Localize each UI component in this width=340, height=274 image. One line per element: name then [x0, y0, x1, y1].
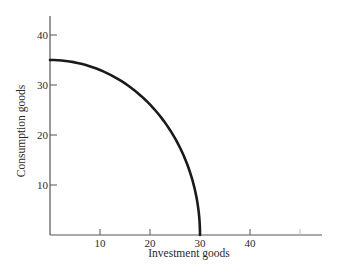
y-ticks: 10203040: [37, 29, 57, 191]
ppf-curve: [50, 60, 200, 235]
x-axis-label: Investment goods: [148, 247, 230, 260]
x-tick-label: 40: [245, 237, 257, 249]
y-tick-label: 20: [37, 129, 49, 141]
y-tick-label: 10: [37, 179, 49, 191]
y-tick-label: 30: [37, 79, 49, 91]
x-axis: 10203040: [50, 229, 322, 249]
y-axis: 10203040: [37, 16, 57, 235]
production-possibility-chart: 10203040 10203040 Investment goods Consu…: [0, 0, 340, 274]
y-axis-label: Consumption goods: [15, 84, 28, 177]
x-tick-label: 10: [95, 237, 107, 249]
y-tick-label: 40: [37, 29, 49, 41]
x-ticks: 10203040: [95, 229, 301, 249]
